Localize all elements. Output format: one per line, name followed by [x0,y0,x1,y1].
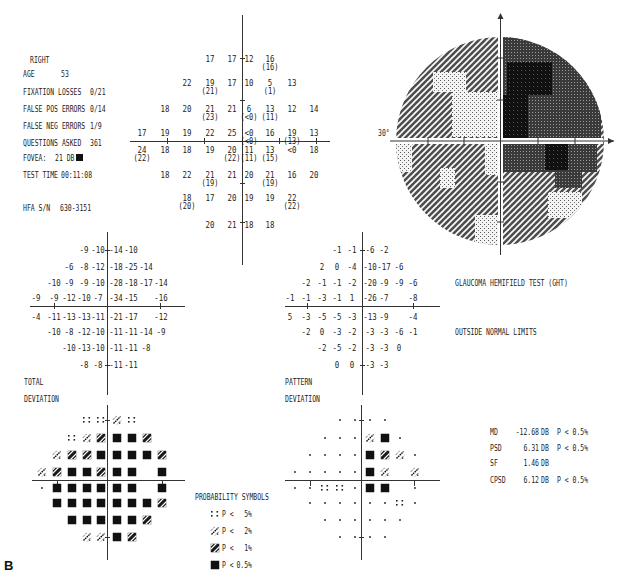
p05-percent-symbol-icon [211,561,220,570]
p2-percent-symbol-icon [211,527,220,536]
cpsd-value: 6.12 [515,475,539,485]
legend-value: 1% [238,543,252,553]
legend-text: P < [222,543,234,553]
cpsd-probability: P < 0.5% [557,475,588,485]
legend-text: P < [222,560,234,570]
legend-text: P < [222,526,234,536]
sf-label: SF [490,458,498,468]
visual-field-report: RIGHT AGE 53 FIXATION LOSSES 0/21 FALSE … [0,0,625,581]
sf-unit: DB [541,458,549,468]
legend-value: 0.5% [234,560,252,570]
legend-text: P < [222,509,234,519]
p1-percent-symbol-icon [211,544,220,553]
sf-value: 1.46 [515,458,539,468]
cpsd-unit: DB [541,475,549,485]
figure-label: B [4,558,13,573]
md-unit: DB [541,427,549,437]
p5-percent-symbol-icon [211,511,219,517]
psd-probability: P < 0.5% [557,443,588,453]
legend-value: 2% [238,526,252,536]
cpsd-label: CPSD [490,475,506,485]
psd-value: 6.31 [515,443,539,453]
md-value: -12.68 [515,427,539,437]
psd-unit: DB [541,443,549,453]
legend-symbols [0,0,625,581]
psd-label: PSD [490,443,502,453]
legend-value: 5% [238,509,252,519]
md-probability: P < 0.5% [557,427,588,437]
md-label: MD [490,427,498,437]
